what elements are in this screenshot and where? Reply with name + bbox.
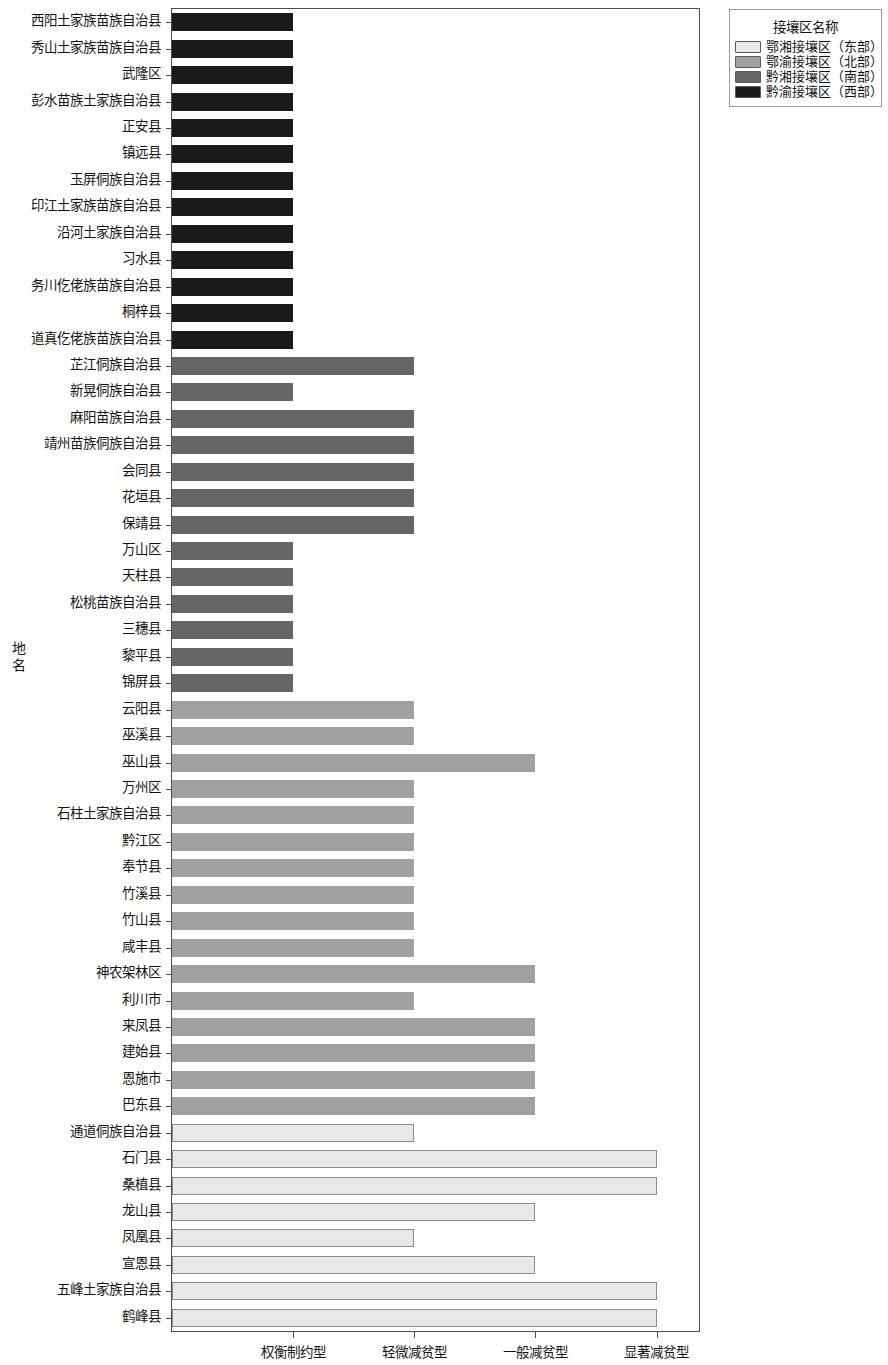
y-axis-tick-label: 凤凰县 bbox=[0, 1230, 170, 1244]
x-axis-tick-mark bbox=[657, 1332, 658, 1338]
y-axis-tick-mark bbox=[166, 392, 171, 393]
y-axis-tick-mark bbox=[166, 1027, 171, 1028]
y-axis-tick-label: 龙山县 bbox=[0, 1204, 170, 1218]
bar-row bbox=[172, 198, 699, 216]
legend-label: 黔渝接壤区（西部） bbox=[766, 85, 883, 99]
y-axis-tick-label: 玉屏侗族自治县 bbox=[0, 173, 170, 187]
bar-row bbox=[172, 939, 699, 957]
legend-swatch-icon bbox=[735, 71, 761, 83]
bar bbox=[172, 225, 293, 243]
bar bbox=[172, 66, 293, 84]
y-axis-tick-label: 石门县 bbox=[0, 1151, 170, 1165]
bar bbox=[172, 331, 293, 349]
y-axis-tick-label: 靖州苗族侗族自治县 bbox=[0, 437, 170, 451]
y-axis-tick-label: 利川市 bbox=[0, 993, 170, 1007]
bar-row bbox=[172, 621, 699, 639]
y-axis-tick-label: 松桃苗族自治县 bbox=[0, 596, 170, 610]
y-axis-tick-mark bbox=[166, 525, 171, 526]
y-axis-tick-mark bbox=[166, 498, 171, 499]
legend-item[interactable]: 黔湘接壤区（南部） bbox=[735, 70, 876, 84]
y-axis-tick-mark bbox=[166, 1238, 171, 1239]
bar bbox=[172, 595, 293, 613]
y-axis-tick-label: 桑植县 bbox=[0, 1178, 170, 1192]
bar bbox=[172, 568, 293, 586]
y-axis-tick-label: 镇远县 bbox=[0, 146, 170, 160]
y-axis-tick-mark bbox=[166, 287, 171, 288]
y-axis-tick-label: 会同县 bbox=[0, 464, 170, 478]
y-axis-tick-mark bbox=[166, 49, 171, 50]
legend-item[interactable]: 鄂渝接壤区（北部） bbox=[735, 55, 876, 69]
y-axis-tick-mark bbox=[166, 1080, 171, 1081]
bar-row bbox=[172, 357, 699, 375]
bar bbox=[172, 278, 293, 296]
bar bbox=[172, 1044, 535, 1062]
y-axis-tick-mark bbox=[166, 1159, 171, 1160]
bar-row bbox=[172, 568, 699, 586]
bar-chart: 地名 西阳土家族苗族自治县秀山土家族苗族自治县武隆区彭水苗族土家族自治县正安县镇… bbox=[0, 0, 888, 1365]
y-axis-tick-mark bbox=[166, 868, 171, 869]
y-axis-tick-mark bbox=[166, 340, 171, 341]
y-axis-tick-label: 石柱土家族自治县 bbox=[0, 807, 170, 821]
bar-row bbox=[172, 225, 699, 243]
bar bbox=[172, 1203, 535, 1221]
bar bbox=[172, 833, 414, 851]
bar bbox=[172, 1256, 535, 1274]
y-axis-tick-mark bbox=[166, 789, 171, 790]
y-axis-tick-label: 五峰土家族自治县 bbox=[0, 1283, 170, 1297]
bar-row bbox=[172, 1044, 699, 1062]
y-axis-tick-mark bbox=[166, 683, 171, 684]
bar bbox=[172, 145, 293, 163]
y-axis-tick-mark bbox=[166, 657, 171, 658]
y-axis-tick-mark bbox=[166, 313, 171, 314]
bar bbox=[172, 251, 293, 269]
y-axis-tick-label: 恩施市 bbox=[0, 1072, 170, 1086]
y-axis-tick-label: 芷江侗族自治县 bbox=[0, 358, 170, 372]
bar-row bbox=[172, 40, 699, 58]
x-axis-tick-mark bbox=[535, 1332, 536, 1338]
y-axis-tick-mark bbox=[166, 842, 171, 843]
bar-row bbox=[172, 66, 699, 84]
legend-label: 鄂渝接壤区（北部） bbox=[766, 55, 883, 69]
x-axis-tick-mark bbox=[414, 1332, 415, 1338]
bar bbox=[172, 383, 293, 401]
bar-row bbox=[172, 119, 699, 137]
bar bbox=[172, 516, 414, 534]
bar-row bbox=[172, 648, 699, 666]
legend-swatch-icon bbox=[735, 86, 761, 98]
x-axis-tick-label: 一般减贫型 bbox=[465, 1341, 605, 1361]
legend-item[interactable]: 黔渝接壤区（西部） bbox=[735, 85, 876, 99]
bar bbox=[172, 410, 414, 428]
legend-item[interactable]: 鄂湘接壤区（东部） bbox=[735, 40, 876, 54]
bar bbox=[172, 172, 293, 190]
bar-row bbox=[172, 1229, 699, 1247]
y-axis-tick-label: 咸丰县 bbox=[0, 940, 170, 954]
bar bbox=[172, 780, 414, 798]
y-axis-tick-mark bbox=[166, 815, 171, 816]
bar-row bbox=[172, 912, 699, 930]
y-axis-tick-label: 巫溪县 bbox=[0, 728, 170, 742]
bar bbox=[172, 939, 414, 957]
y-axis-tick-label: 新晃侗族自治县 bbox=[0, 384, 170, 398]
bar bbox=[172, 436, 414, 454]
bar-row bbox=[172, 1203, 699, 1221]
y-axis-tick-mark bbox=[166, 260, 171, 261]
bar bbox=[172, 1018, 535, 1036]
y-axis-tick-label: 西阳土家族苗族自治县 bbox=[0, 14, 170, 28]
bar bbox=[172, 542, 293, 560]
y-axis-tick-mark bbox=[166, 974, 171, 975]
bar-row bbox=[172, 331, 699, 349]
bar-row bbox=[172, 1097, 699, 1115]
y-axis-tick-mark bbox=[166, 577, 171, 578]
bar bbox=[172, 1124, 414, 1142]
bar-row bbox=[172, 1018, 699, 1036]
y-axis-tick-mark bbox=[166, 736, 171, 737]
bar bbox=[172, 1071, 535, 1089]
y-axis-tick-mark bbox=[166, 1133, 171, 1134]
legend-items: 鄂湘接壤区（东部）鄂渝接壤区（北部）黔湘接壤区（南部）黔渝接壤区（西部） bbox=[735, 40, 876, 99]
bar-row bbox=[172, 251, 699, 269]
y-axis-tick-label: 麻阳苗族自治县 bbox=[0, 411, 170, 425]
bar-row bbox=[172, 1282, 699, 1300]
bar-row bbox=[172, 701, 699, 719]
y-axis-tick-label: 来凤县 bbox=[0, 1019, 170, 1033]
bar-row bbox=[172, 965, 699, 983]
